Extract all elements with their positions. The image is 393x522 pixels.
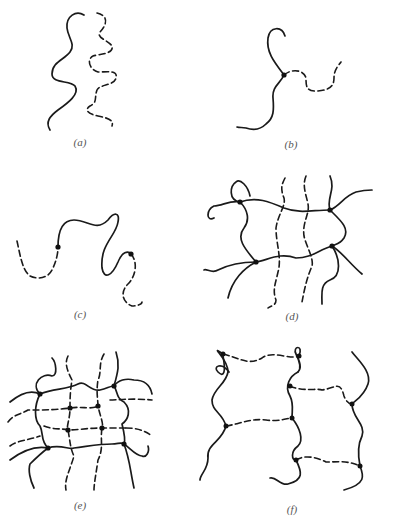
crosslink-node: [288, 384, 293, 389]
chain: [292, 418, 301, 460]
dashed-chain: [10, 436, 40, 446]
chain: [352, 352, 369, 404]
crosslink-node: [294, 458, 299, 463]
crosslink-node: [329, 243, 334, 248]
branch-tail: [237, 75, 284, 129]
dashed-chain: [290, 386, 352, 404]
chain: [29, 448, 48, 488]
chain: [231, 181, 250, 202]
crosslink-node: [224, 424, 229, 429]
chain: [344, 466, 363, 490]
crosslink-node: [99, 425, 104, 430]
crosslink-node: [253, 259, 258, 264]
chain-dashed-left: [17, 241, 58, 278]
chain: [330, 210, 346, 246]
dashed-chain: [226, 418, 292, 426]
chain-dashed-right: [123, 254, 142, 306]
chain: [322, 246, 339, 304]
crosslink-node: [237, 199, 242, 204]
panel-label-a: (a): [74, 136, 87, 148]
chain: [212, 351, 228, 426]
chain: [36, 358, 56, 394]
panel-label-d: (d): [286, 310, 299, 322]
crosslink-node: [358, 464, 363, 469]
panel-label-e: (e): [74, 499, 86, 511]
chain: [200, 426, 226, 480]
chain: [352, 404, 363, 466]
dashed-chain: [223, 354, 299, 361]
junction-node: [55, 244, 60, 249]
chain: [36, 394, 49, 448]
crosslink-node: [297, 354, 302, 359]
panel-label-b: (b): [285, 138, 298, 150]
chain-solid-middle: [58, 214, 131, 275]
crosslink-node: [111, 383, 116, 388]
dashed-chain: [296, 457, 360, 466]
panel-e: [8, 352, 152, 490]
chain-dashed: [87, 13, 116, 126]
chain: [208, 202, 240, 219]
chain: [10, 392, 40, 402]
dashed-chain: [110, 399, 152, 400]
chain: [48, 443, 124, 448]
chain: [240, 202, 256, 262]
crosslink-node: [37, 391, 42, 396]
chain: [40, 383, 114, 394]
chain: [228, 262, 256, 298]
branch-hook: [268, 29, 285, 75]
branch-dashed: [284, 62, 341, 91]
chain: [330, 190, 372, 210]
chain: [270, 460, 300, 484]
dashed-chain: [126, 428, 152, 436]
chain-solid: [48, 13, 84, 130]
chain: [114, 352, 118, 386]
crosslink-node: [45, 445, 50, 450]
dashed-chain: [8, 406, 98, 422]
chain: [288, 372, 298, 418]
chain: [256, 246, 332, 262]
panel-f: [200, 348, 369, 491]
crosslink-node: [221, 352, 226, 357]
panel-label-f: (f): [287, 503, 297, 515]
dashed-chain: [302, 176, 312, 302]
crosslink-node: [350, 402, 355, 407]
panel-c: [17, 214, 142, 306]
crosslink-node: [290, 416, 295, 421]
dashed-chain: [44, 426, 126, 430]
chain: [114, 386, 128, 444]
crosslink-node: [95, 403, 100, 408]
crosslink-node: [327, 207, 332, 212]
panel-a: [48, 13, 116, 130]
panel-d: [204, 176, 372, 308]
polymer-diagram: [0, 0, 393, 522]
crosslink-node: [121, 441, 126, 446]
dashed-chain: [268, 178, 285, 308]
junction-node: [281, 72, 286, 77]
chain: [332, 246, 362, 274]
crosslink-node: [67, 405, 72, 410]
chain: [329, 176, 332, 210]
chain: [114, 379, 152, 394]
dashed-chain: [94, 354, 104, 490]
chain: [295, 348, 300, 373]
panel-label-c: (c): [74, 308, 86, 320]
panel-b: [237, 29, 341, 129]
crosslink-node: [65, 427, 70, 432]
junction-node: [128, 251, 133, 256]
dashed-chain: [66, 356, 74, 490]
